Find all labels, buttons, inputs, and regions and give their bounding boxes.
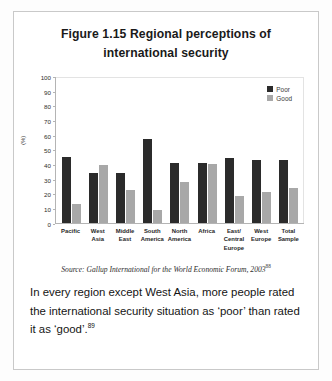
- bar-poor: [143, 139, 152, 223]
- body-paragraph: In every region except West Asia, more p…: [30, 283, 302, 338]
- legend-label: Good: [276, 95, 292, 102]
- x-tick-label: West Europe: [248, 227, 275, 253]
- chart-area: PoorGood (%) 0102030405060708090100 Paci…: [22, 73, 310, 255]
- x-tick-label: Africa: [193, 227, 220, 253]
- x-tick-label: West Asia: [84, 227, 111, 253]
- y-tick-mark: [53, 165, 55, 166]
- x-tick-label: Middle East: [111, 227, 138, 253]
- x-tick-label: Total Sample: [275, 227, 302, 253]
- bar-poor: [170, 163, 179, 223]
- y-tick-mark: [53, 77, 55, 78]
- y-tick-label: 20: [31, 191, 51, 198]
- bar-poor: [279, 160, 288, 223]
- body-paragraph-text: In every region except West Asia, more p…: [30, 286, 300, 335]
- source-text: Source: Gallup International for the Wor…: [61, 264, 265, 273]
- y-axis-label: (%): [20, 135, 26, 144]
- y-tick-label: 10: [31, 206, 51, 213]
- bar-good: [289, 188, 298, 223]
- x-axis-labels: PacificWest AsiaMiddle EastSouth America…: [55, 227, 304, 253]
- body-footnote-marker: 89: [88, 322, 95, 329]
- x-tick-label: North America: [166, 227, 193, 253]
- y-tick-mark: [53, 180, 55, 181]
- plot-region: PoorGood: [55, 77, 304, 224]
- y-tick-label: 30: [31, 176, 51, 183]
- y-tick-label: 80: [31, 103, 51, 110]
- legend-swatch-icon: [267, 86, 273, 92]
- bar-group: [139, 77, 166, 223]
- bar-good: [153, 210, 162, 223]
- bar-group: [112, 77, 139, 223]
- y-tick-label: 90: [31, 88, 51, 95]
- y-tick-mark: [53, 150, 55, 151]
- bar-good: [262, 192, 271, 223]
- bar-poor: [89, 173, 98, 223]
- bar-group: [58, 77, 85, 223]
- y-tick-mark: [53, 92, 55, 93]
- y-tick-label: 50: [31, 147, 51, 154]
- source-caption: Source: Gallup International for the Wor…: [28, 263, 304, 274]
- bar-good: [208, 164, 217, 223]
- y-tick-mark: [53, 209, 55, 210]
- y-tick-label: 70: [31, 117, 51, 124]
- x-tick-label: South America: [139, 227, 166, 253]
- y-tick-mark: [53, 136, 55, 137]
- y-tick-label: 0: [31, 220, 51, 227]
- legend-item: Good: [267, 95, 292, 102]
- bar-poor: [225, 158, 234, 223]
- bar-poor: [116, 173, 125, 223]
- y-tick-mark: [53, 121, 55, 122]
- bar-good: [235, 196, 244, 222]
- bar-poor: [198, 163, 207, 223]
- bar-good: [99, 165, 108, 222]
- x-tick-label: Pacific: [57, 227, 84, 253]
- bar-group: [85, 77, 112, 223]
- figure-title: Figure 1.15 Regional perceptions of inte…: [32, 25, 300, 63]
- bar-poor: [252, 160, 261, 223]
- legend-swatch-icon: [267, 95, 273, 101]
- x-tick-label: East/ Central Europe: [220, 227, 247, 253]
- bar-good: [180, 182, 189, 223]
- chart-legend: PoorGood: [267, 86, 292, 104]
- legend-item: Poor: [267, 86, 292, 93]
- bar-poor: [62, 157, 71, 223]
- y-tick-mark: [53, 106, 55, 107]
- bar-good: [72, 204, 81, 223]
- y-tick-mark: [53, 224, 55, 225]
- y-tick-label: 100: [31, 73, 51, 80]
- legend-label: Poor: [276, 86, 290, 93]
- page-root: Figure 1.15 Regional perceptions of inte…: [0, 0, 332, 381]
- y-tick-label: 60: [31, 132, 51, 139]
- bar-group: [194, 77, 221, 223]
- bar-group: [166, 77, 193, 223]
- figure-container: Figure 1.15 Regional perceptions of inte…: [13, 11, 319, 370]
- y-tick-mark: [53, 194, 55, 195]
- bar-group: [221, 77, 248, 223]
- bar-good: [126, 190, 135, 222]
- y-tick-label: 40: [31, 162, 51, 169]
- source-footnote-marker: 88: [266, 263, 271, 269]
